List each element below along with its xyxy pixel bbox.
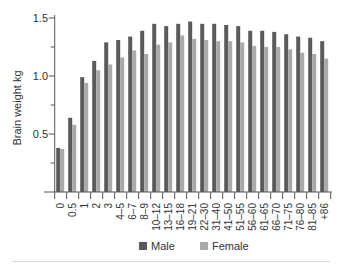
x-tick-label: 51–55	[235, 203, 246, 231]
x-tick-label: 6–7	[127, 203, 138, 220]
x-tick-label: 4–5	[115, 203, 126, 220]
bar-female	[324, 59, 328, 192]
x-tick-label: 8–9	[139, 203, 150, 220]
bar-male	[152, 24, 156, 192]
x-tick-label: 71–75	[283, 203, 294, 231]
legend: Male Female	[0, 240, 344, 254]
x-tick-label: 22–30	[199, 203, 210, 231]
x-tick-label: 16–18	[175, 203, 186, 231]
legend-item-female: Female	[200, 240, 249, 252]
x-tick-label: 0	[55, 203, 66, 209]
bar-female	[144, 54, 148, 192]
female-swatch	[200, 242, 208, 250]
bar-female	[108, 64, 112, 192]
bar-male	[68, 118, 72, 192]
bar-female	[168, 42, 172, 192]
bar-female	[96, 70, 100, 192]
bar-female	[84, 83, 88, 192]
bar-male	[140, 31, 144, 192]
bar-female	[180, 35, 184, 192]
x-tick-label: 13–15	[163, 203, 174, 231]
bar-male	[80, 77, 84, 192]
bar-male	[248, 31, 252, 192]
x-tick-label: +86	[319, 203, 330, 220]
x-tick-label: 61–65	[259, 203, 270, 231]
bar-male	[284, 34, 288, 192]
bar-male	[296, 37, 300, 192]
male-swatch	[139, 242, 147, 250]
bar-female	[276, 47, 280, 192]
x-tick-label: 56–60	[247, 203, 258, 231]
bar-female	[72, 125, 76, 192]
bar-male	[56, 148, 60, 192]
legend-female-label: Female	[212, 240, 249, 252]
legend-male-label: Male	[151, 240, 175, 252]
x-tick-label: 1	[79, 203, 90, 209]
bar-female	[216, 41, 220, 192]
x-tick-label: 76–80	[295, 203, 306, 231]
bar-female	[252, 46, 256, 192]
bar-male	[116, 40, 120, 192]
bar-male	[272, 32, 276, 192]
bar-male	[92, 61, 96, 192]
bar-female	[300, 53, 304, 192]
bar-male	[176, 24, 180, 192]
bar-male	[128, 37, 132, 192]
bar-male	[224, 25, 228, 192]
bar-female	[204, 40, 208, 192]
bar-female	[156, 45, 160, 192]
bar-female	[228, 41, 232, 192]
bottom-divider	[12, 261, 330, 262]
bar-male	[236, 26, 240, 192]
legend-item-male: Male	[139, 240, 175, 252]
bar-female	[192, 39, 196, 192]
x-tick-label: 3	[103, 203, 114, 209]
x-tick-label: 19–21	[187, 203, 198, 231]
x-tick-label: 66–70	[271, 203, 282, 231]
bar-male	[104, 42, 108, 192]
bar-female	[120, 57, 124, 192]
bar-male	[200, 24, 204, 192]
bar-male	[188, 21, 192, 192]
bar-female	[60, 149, 64, 192]
bar-female	[312, 54, 316, 192]
x-tick-label: 10–12	[151, 203, 162, 231]
bar-female	[288, 49, 292, 192]
bar-male	[320, 41, 324, 192]
bar-male	[260, 31, 264, 192]
x-tick-label: 0.5	[67, 203, 78, 217]
bar-female	[240, 42, 244, 192]
brain-weight-chart: Brain weight kg 0.5 1.0 1.5 00.51234–56–…	[0, 0, 344, 267]
x-tick-label: 81–85	[307, 203, 318, 231]
bar-male	[164, 26, 168, 192]
x-tick-label: 31–40	[211, 203, 222, 231]
bar-male	[308, 38, 312, 192]
x-tick-label: 2	[91, 203, 102, 209]
bars-group	[56, 21, 328, 192]
x-tick-label: 41–50	[223, 203, 234, 231]
bar-female	[264, 47, 268, 192]
bar-female	[132, 50, 136, 192]
bar-male	[212, 24, 216, 192]
